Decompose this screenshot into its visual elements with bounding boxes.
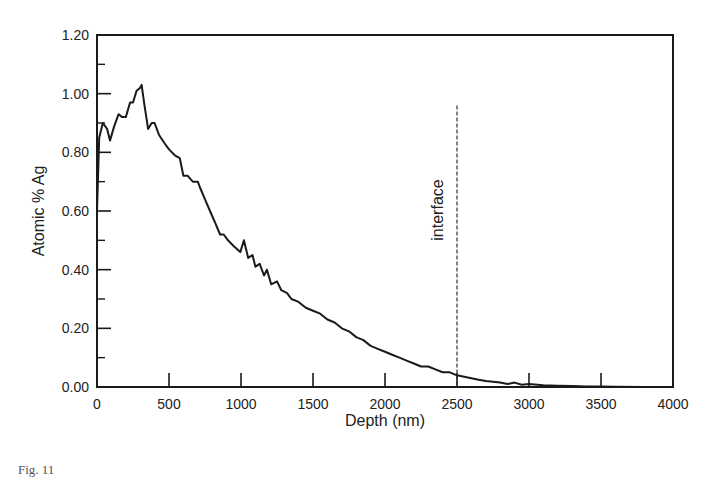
x-tick-label: 2000 (369, 396, 400, 412)
x-tick-label: 4000 (657, 396, 688, 412)
plot-frame (97, 35, 673, 387)
y-tick-label: 0.40 (62, 262, 89, 278)
x-tick-label: 3500 (585, 396, 616, 412)
y-tick-label: 0.20 (62, 320, 89, 336)
x-tick-label: 1500 (297, 396, 328, 412)
x-tick-label: 0 (93, 396, 101, 412)
y-tick-label: 1.20 (62, 27, 89, 43)
interface-label: interface (429, 179, 446, 240)
x-tick-label: 500 (157, 396, 181, 412)
y-tick-label: 1.00 (62, 86, 89, 102)
x-tick-label: 3000 (513, 396, 544, 412)
y-tick-label: 0.80 (62, 144, 89, 160)
y-axis-title: Atomic % Ag (30, 166, 47, 257)
y-tick-label: 0.60 (62, 203, 89, 219)
x-axis-title: Depth (nm) (345, 412, 425, 429)
x-axis-ticks: 05001000150020002500300035004000 (93, 373, 689, 412)
y-tick-label: 0.00 (62, 379, 89, 395)
x-tick-label: 2500 (441, 396, 472, 412)
x-tick-label: 1000 (225, 396, 256, 412)
y-axis-ticks: 0.000.200.400.600.801.001.20 (62, 27, 111, 395)
data-line (97, 85, 673, 387)
figure-caption: Fig. 11 (18, 462, 54, 478)
